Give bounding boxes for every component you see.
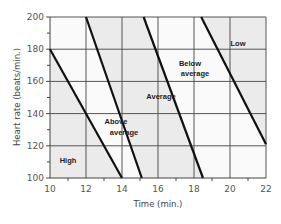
y-tick-100: 100 — [27, 173, 44, 183]
y-axis-label: Heart rate (beats/min.) — [12, 48, 22, 146]
x-tick-labels: 10 12 14 16 18 20 22 — [44, 184, 271, 194]
y-tick-160: 160 — [27, 76, 44, 86]
zone-label-below-1: Below — [179, 59, 201, 68]
zone-label-low: Low — [231, 39, 246, 48]
heart-rate-chart: 200 180 160 140 120 100 10 12 14 16 18 2… — [0, 0, 281, 224]
x-tick-10: 10 — [44, 184, 56, 194]
y-tick-labels: 200 180 160 140 120 100 — [27, 12, 44, 183]
y-tick-200: 200 — [27, 12, 44, 22]
zone-label-below-2: average — [181, 69, 209, 78]
zone-label-above-2: average — [110, 128, 138, 137]
x-tick-14: 14 — [116, 184, 128, 194]
zone-label-above-1: Above — [105, 117, 128, 126]
y-tick-120: 120 — [27, 141, 44, 151]
x-tick-12: 12 — [80, 184, 91, 194]
y-tick-140: 140 — [27, 109, 44, 119]
x-tick-22: 22 — [260, 184, 271, 194]
x-tick-20: 20 — [224, 184, 236, 194]
x-tick-16: 16 — [152, 184, 164, 194]
zone-label-high: High — [60, 156, 77, 165]
zone-label-average: Average — [146, 92, 175, 101]
y-tick-180: 180 — [27, 44, 44, 54]
x-axis-label: Time (min.) — [133, 199, 183, 209]
x-tick-18: 18 — [188, 184, 200, 194]
